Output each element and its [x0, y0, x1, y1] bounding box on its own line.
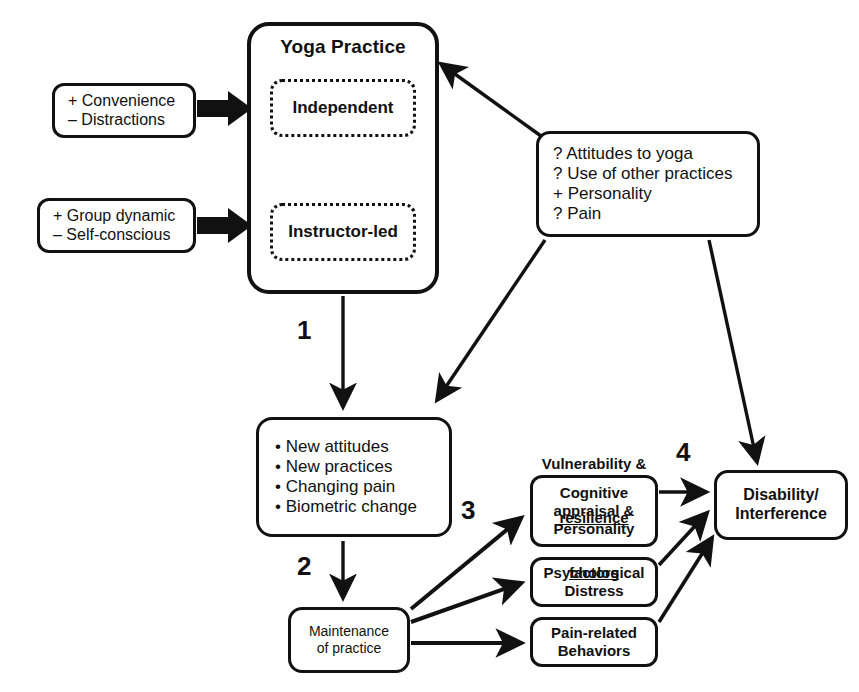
node-outcomes-line-4: • Biometric change [275, 497, 417, 517]
node-moderators-line-4: ? Pain [553, 204, 601, 224]
node-instructor-led-label: Instructor-led [288, 222, 398, 242]
arrow-distress-to-disability [659, 513, 707, 565]
vulnerability-resilience-label-line-3: factors [524, 564, 664, 582]
node-moderators-line-1: ? Attitudes to yoga [553, 144, 693, 164]
node-maintenance[interactable]: Maintenance of practice [288, 607, 410, 673]
node-instructor-factors[interactable]: + Group dynamic – Self-conscious [37, 198, 196, 253]
node-moderators-line-2: ? Use of other practices [553, 164, 733, 184]
node-instructor-factors-line-2: – Self-conscious [53, 226, 170, 245]
arrow-maintenance-to-distress [411, 583, 521, 622]
node-maintenance-line-2: of practice [317, 640, 382, 657]
block-arrow-group-dynamic [197, 208, 252, 243]
vulnerability-resilience-label: Vulnerability & resilience factors [524, 418, 664, 619]
node-independent-label: Independent [292, 98, 393, 118]
step-label-2: 2 [297, 551, 311, 582]
node-moderators[interactable]: ? Attitudes to yoga ? Use of other pract… [536, 131, 760, 237]
node-outcomes-line-3: • Changing pain [275, 477, 395, 497]
step-label-4: 4 [676, 437, 690, 468]
vulnerability-resilience-label-line-1: Vulnerability & [524, 455, 664, 473]
arrow-attitudes-to-yoga [441, 64, 541, 136]
step-label-1: 1 [297, 315, 311, 346]
node-independent[interactable]: Independent [270, 79, 416, 137]
vulnerability-resilience-label-line-2: resilience [524, 509, 664, 527]
node-outcomes-line-2: • New practices [275, 457, 392, 477]
node-moderators-line-3: + Personality [553, 184, 652, 204]
yoga-practice-title: Yoga Practice [280, 36, 406, 58]
node-independent-factors-line-2: – Distractions [68, 111, 165, 130]
arrow-attitudes-to-outcomes [437, 240, 545, 400]
diagram-canvas: Yoga Practice Independent Instructor-led… [0, 0, 859, 692]
node-outcomes[interactable]: • New attitudes • New practices • Changi… [256, 417, 452, 537]
node-disability-interference-line-2: Interference [735, 505, 827, 524]
node-outcomes-line-1: • New attitudes [275, 437, 389, 457]
step-label-3: 3 [461, 495, 475, 526]
arrow-pain-related-to-disability [659, 538, 712, 622]
node-disability-interference[interactable]: Disability/ Interference [714, 470, 848, 540]
node-instructor-factors-line-1: + Group dynamic [53, 207, 175, 226]
node-independent-factors[interactable]: + Convenience – Distractions [52, 83, 196, 138]
node-disability-interference-line-1: Disability/ [743, 486, 819, 505]
node-maintenance-line-1: Maintenance [309, 623, 389, 640]
arrow-step-4-attitudes-to-disability [709, 240, 757, 462]
block-arrow-convenience [197, 91, 252, 126]
node-pain-related-behaviors-line-2: Behaviors [558, 642, 631, 660]
node-independent-factors-line-1: + Convenience [68, 92, 175, 111]
node-pain-related-behaviors[interactable]: Pain-related Behaviors [530, 617, 658, 667]
node-pain-related-behaviors-line-1: Pain-related [551, 624, 637, 642]
node-instructor-led[interactable]: Instructor-led [270, 203, 416, 261]
